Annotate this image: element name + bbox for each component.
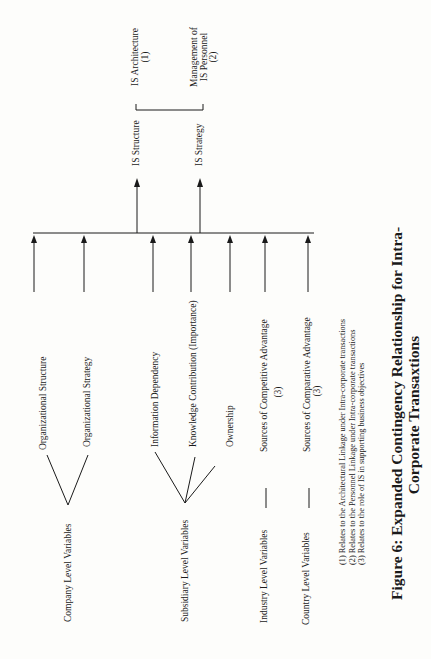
competitive-advantage-note: (3) [274, 332, 284, 452]
footnotes: (1) Relates to the Architectural Linkage… [338, 319, 367, 565]
comparative-advantage-note: (3) [313, 330, 323, 452]
organizational-structure-label: Organizational Structure [39, 357, 49, 450]
country-level-label: Country Level Variables [302, 532, 312, 625]
competitive-advantage-block: Sources of Competitive Advantage (3) [260, 332, 283, 452]
ownership-label: Ownership [226, 405, 236, 447]
is-structure-label: IS Structure [132, 120, 142, 166]
is-architecture-note: (1) [141, 22, 151, 92]
footnote-1: (1) Relates to the Architectural Linkage… [338, 319, 348, 565]
input-arrows [34, 243, 308, 292]
organizational-strategy-label: Organizational Strategy [83, 357, 93, 447]
caption-line-2: Corporate Transaxtions [405, 230, 422, 600]
footnote-2: (2) Relates to the Personnel Linkage und… [348, 319, 358, 565]
footnote-3: (3) Relates to the role of IS in support… [357, 319, 367, 565]
caption-line-1: Figure 6: Expanded Contingency Relations… [388, 230, 405, 600]
company-level-label: Company Level Variables [64, 524, 74, 623]
management-block: Management of IS Personnel (2) [190, 22, 219, 92]
is-strategy-label: IS Strategy [195, 124, 205, 166]
bracket [136, 104, 203, 110]
industry-level-label: Industry Level Variables [260, 530, 270, 623]
subsidiary-level-label: Subsidiary Level Variables [181, 520, 191, 622]
management-note: (2) [209, 22, 219, 92]
comparative-advantage-block: Sources of Comparative Advantage (3) [303, 330, 322, 452]
knowledge-contribution-label: Knowledge Contribution (Importance) [189, 300, 199, 447]
information-dependency-label: Information Dependency [151, 352, 161, 447]
is-architecture-block: IS Architecture (1) [131, 22, 150, 92]
figure-caption: Figure 6: Expanded Contingency Relations… [388, 230, 422, 600]
competitive-advantage-label: Sources of Competitive Advantage [260, 332, 270, 452]
